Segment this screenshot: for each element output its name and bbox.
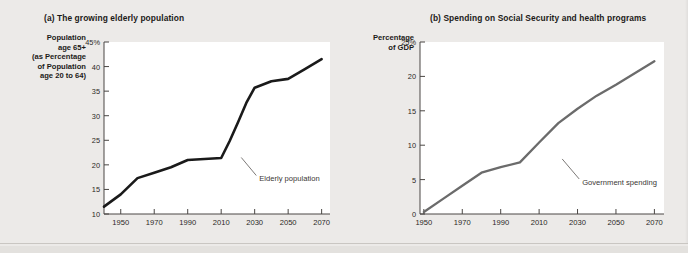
x-tick-label: 1990 — [179, 218, 196, 227]
x-tick-label: 2050 — [608, 218, 625, 227]
panel-b-title: (b) Spending on Social Security and heal… — [430, 13, 646, 23]
y-tick-label: 10 — [70, 210, 100, 219]
y-tick-label: 15 — [386, 106, 416, 115]
y-tick-label: 45% — [70, 38, 100, 47]
y-tick-label: 15 — [70, 185, 100, 194]
axis-spine — [104, 42, 330, 214]
x-tick-label: 2050 — [280, 218, 297, 227]
x-tick-label: 1970 — [146, 218, 163, 227]
y-tick-label: 25% — [386, 38, 416, 47]
y-tick-label: 25 — [70, 136, 100, 145]
annotation-leader-line — [562, 159, 579, 179]
page-divider-rule — [0, 243, 688, 244]
panel-a-plot-area — [104, 42, 330, 214]
x-tick-label: 2070 — [646, 218, 663, 227]
x-tick-label: 2010 — [531, 218, 548, 227]
panel-b-plot-svg — [420, 42, 664, 214]
chart-panel-b: (b) Spending on Social Security and heal… — [344, 0, 688, 253]
x-tick-label: 1990 — [492, 218, 509, 227]
series-annotation-label: Government spending — [582, 178, 657, 187]
axis-spine — [420, 42, 664, 214]
figure-root: (a) The growing elderly population Popul… — [0, 0, 688, 253]
y-tick-label: 10 — [386, 141, 416, 150]
panel-a-title: (a) The growing elderly population — [44, 13, 184, 23]
x-tick-label: 2070 — [313, 218, 330, 227]
y-tick-label: 20 — [70, 160, 100, 169]
x-tick-label: 1950 — [112, 218, 129, 227]
y-tick-label: 0 — [386, 210, 416, 219]
y-tick-label: 40 — [70, 62, 100, 71]
chart-panel-a: (a) The growing elderly population Popul… — [0, 0, 344, 253]
y-tick-label: 20 — [386, 72, 416, 81]
panel-a-plot-svg — [104, 42, 330, 214]
panel-b-plot-area — [420, 42, 664, 214]
data-series-line — [104, 59, 322, 206]
y-axis-label-line: (as Percentage — [6, 52, 86, 62]
x-tick-label: 1970 — [454, 218, 471, 227]
page-bottom-band — [0, 246, 688, 253]
series-annotation-label: Elderly population — [259, 174, 319, 183]
y-tick-label: 35 — [70, 87, 100, 96]
annotation-leader-line — [241, 157, 256, 175]
y-tick-label: 5 — [386, 175, 416, 184]
data-series-line — [424, 61, 655, 212]
y-tick-label: 30 — [70, 111, 100, 120]
x-tick-label: 2030 — [569, 218, 586, 227]
x-tick-label: 2030 — [246, 218, 263, 227]
y-axis-label-line: age 20 to 64) — [6, 71, 86, 81]
x-tick-label: 1950 — [415, 218, 432, 227]
x-tick-label: 2010 — [213, 218, 230, 227]
